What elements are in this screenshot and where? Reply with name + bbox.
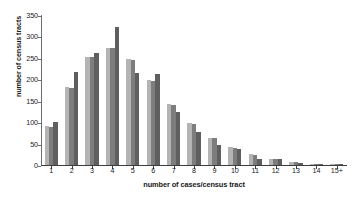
bar (196, 132, 200, 165)
bar (298, 163, 302, 165)
bar (74, 72, 78, 165)
bar (115, 27, 119, 165)
x-tick-label: 7 (172, 167, 176, 175)
y-tick-mark (38, 37, 41, 38)
histogram-chart: number of census tracts 0501001502002503… (0, 0, 353, 198)
bar (339, 164, 343, 165)
bar (155, 74, 159, 165)
x-tick-label: 12 (272, 167, 280, 175)
x-tick-label: 4 (110, 167, 114, 175)
y-tick-mark (38, 80, 41, 81)
y-axis-tick-labels: 050100150200250300350 (12, 10, 38, 168)
x-tick-label: 3 (90, 167, 94, 175)
x-tick-label: 11 (252, 167, 259, 175)
x-tick-label: 5 (131, 167, 135, 175)
x-axis-tick-labels: 123456789101112131415+ (41, 167, 347, 179)
plot-area (41, 15, 347, 166)
y-tick-mark (38, 145, 41, 146)
y-tick-mark (38, 16, 41, 17)
y-tick-label: 200 (12, 77, 38, 84)
y-tick-label: 50 (12, 141, 38, 148)
y-tick-label: 350 (12, 12, 38, 19)
y-tick-label: 100 (12, 120, 38, 127)
x-tick-label: 10 (231, 167, 239, 175)
x-tick-label: 1 (49, 167, 53, 175)
x-tick-label: 6 (151, 167, 155, 175)
bar (237, 149, 241, 165)
x-tick-label: 15+ (331, 167, 343, 175)
bar (94, 53, 98, 165)
y-tick-mark (38, 59, 41, 60)
y-tick-label: 0 (12, 162, 38, 169)
bar (135, 73, 139, 165)
x-tick-label: 13 (292, 167, 300, 175)
bar (176, 112, 180, 165)
y-tick-label: 300 (12, 34, 38, 41)
bar (53, 122, 57, 165)
bar (257, 159, 261, 165)
x-tick-label: 8 (192, 167, 196, 175)
bars-layer (41, 15, 347, 165)
x-tick-label: 14 (312, 167, 320, 175)
y-tick-label: 250 (12, 55, 38, 62)
y-tick-label: 150 (12, 98, 38, 105)
y-tick-mark (38, 102, 41, 103)
bar (217, 145, 221, 165)
x-tick-label: 9 (212, 167, 216, 175)
x-axis-label: number of cases/census tract (41, 180, 347, 189)
x-tick-label: 2 (70, 167, 74, 175)
bar (278, 159, 282, 165)
bar (319, 164, 323, 165)
y-tick-mark (38, 123, 41, 124)
